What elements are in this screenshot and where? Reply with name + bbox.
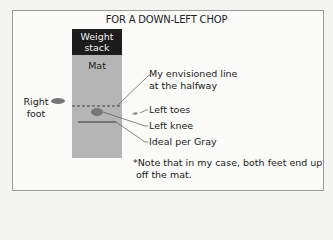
left-knee-marker <box>91 108 103 116</box>
left-knee-label: Left knee <box>149 120 193 132</box>
right-foot-label: Right foot <box>22 96 50 120</box>
envisioned-line-label: My envisioned line at the halfway <box>149 68 237 92</box>
footnote: *Note that in my case, both feet end up … <box>133 157 322 181</box>
right-foot-marker <box>51 98 65 104</box>
ideal-label: Ideal per Gray <box>149 136 217 148</box>
left-toes-marker <box>132 112 138 115</box>
left-toes-label: Left toes <box>149 104 190 116</box>
